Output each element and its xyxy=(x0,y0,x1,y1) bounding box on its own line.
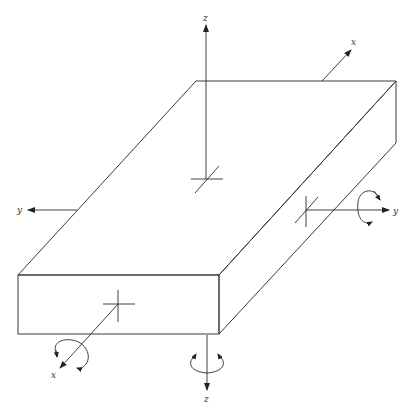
top-cross-d xyxy=(195,166,219,193)
rotation-arrowhead-x xyxy=(56,350,57,357)
y-right-label: y xyxy=(392,206,399,216)
x-back-label: x xyxy=(351,37,356,47)
slab-diagram: z x y y x z xyxy=(0,0,417,416)
side-face xyxy=(219,81,396,334)
x-axis-back xyxy=(322,50,351,81)
z-down-label: z xyxy=(203,394,209,404)
rotation-arrowhead-y xyxy=(374,191,380,200)
top-face xyxy=(18,81,396,275)
x-front-label: x xyxy=(51,370,56,380)
y-left-label: y xyxy=(16,205,23,215)
front-face xyxy=(18,275,219,334)
x-axis-front xyxy=(60,304,118,368)
z-up-label: z xyxy=(202,13,208,23)
rotation-icon-x xyxy=(55,340,88,369)
